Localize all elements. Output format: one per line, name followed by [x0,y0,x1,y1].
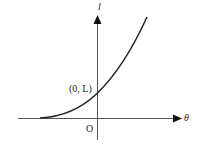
y-axis-arrow-icon [94,15,102,24]
origin-label: O [86,124,93,134]
curve [40,17,147,118]
intercept-label: (0, L) [69,84,92,94]
x-axis-label: θ [184,113,189,123]
y-axis-label: l [98,2,101,12]
diagram-canvas: l θ O (0, L) [0,0,197,149]
graph-svg [0,0,197,149]
x-axis-arrow-icon [173,115,182,123]
